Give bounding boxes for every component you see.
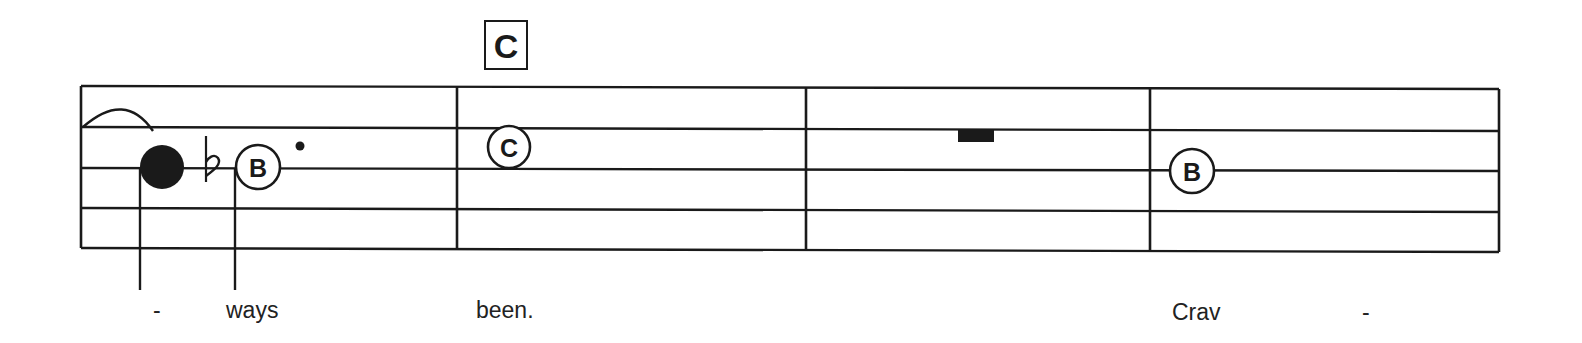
note-b: B — [1170, 149, 1214, 193]
measure-4: B — [1170, 149, 1214, 193]
lyric-hyphen: - — [1362, 299, 1370, 325]
staff-line-5 — [81, 248, 1499, 252]
lyric-hyphen: - — [153, 297, 161, 323]
lyrics: - ways been. Crav - — [153, 297, 1370, 325]
staff-line-4 — [81, 208, 1499, 212]
music-score: C B C — [0, 0, 1582, 343]
whole-rest-icon — [958, 129, 994, 142]
note-b: B — [236, 145, 280, 189]
note-c: C — [488, 126, 530, 168]
measure-1: B — [83, 109, 305, 290]
note-letter: C — [500, 134, 518, 162]
staff-line-2 — [81, 127, 1499, 131]
staff-line-3 — [81, 168, 1499, 171]
dot-icon — [296, 142, 305, 151]
rehearsal-mark: C — [485, 21, 527, 69]
flat-icon — [206, 136, 219, 182]
staff — [81, 86, 1499, 252]
measure-3 — [958, 129, 994, 142]
note-letter: B — [1183, 158, 1201, 186]
lyric-word: Crav — [1172, 299, 1221, 325]
measure-2: C — [488, 126, 530, 168]
lyric-word: been. — [476, 297, 534, 323]
rehearsal-letter: C — [494, 27, 519, 65]
note-letter: B — [249, 154, 267, 182]
filled-notehead-icon — [140, 145, 184, 189]
staff-line-1 — [81, 86, 1499, 89]
lyric-word: ways — [225, 297, 278, 323]
